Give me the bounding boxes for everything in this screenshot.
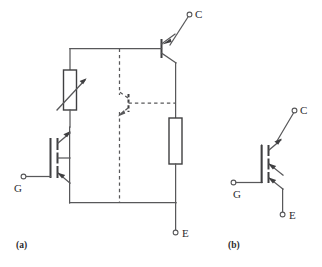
variable-resistor-arrow-head xyxy=(80,78,87,84)
label-emitter-a: E xyxy=(182,227,189,239)
label-gate-b: G xyxy=(233,188,241,200)
figure-container: C G E (a) xyxy=(0,0,322,267)
gate-terminal-node-b xyxy=(231,180,236,185)
label-collector-b: C xyxy=(300,104,307,116)
label-gate-a: G xyxy=(14,182,22,194)
label-emitter-b: E xyxy=(289,209,296,221)
panel-b-igbt-symbol: C G E (b) xyxy=(228,104,307,251)
variable-resistor-body xyxy=(64,70,77,110)
collector-lead-wire xyxy=(170,17,188,45)
panel-a-equivalent-circuit: C G E (a) xyxy=(14,8,202,251)
collector-lead-wire-b xyxy=(277,113,294,141)
npn-transistor-dashed xyxy=(118,49,176,204)
panel-b-collector-terminal xyxy=(277,108,297,141)
panel-a-collector-terminal xyxy=(170,12,192,45)
npn-collector-wire xyxy=(120,92,129,98)
circuit-diagram-svg: C G E (a) xyxy=(0,0,322,267)
igbt-collector-branch xyxy=(269,138,282,150)
variable-resistor xyxy=(57,70,87,127)
collector-terminal-node-b xyxy=(292,108,297,113)
pnp-transistor xyxy=(70,34,176,118)
emitter-terminal-node xyxy=(173,230,178,235)
igbt-middle-branch xyxy=(268,163,283,175)
igbt-emitter-branch xyxy=(268,177,285,217)
panel-b-gate-terminal xyxy=(231,145,262,185)
caption-a: (a) xyxy=(16,240,27,251)
body-resistor-body xyxy=(169,118,182,164)
body-resistor xyxy=(169,118,182,203)
panel-a-gate-terminal xyxy=(21,174,26,179)
pnp-collector-wire xyxy=(162,53,177,63)
label-collector-a: C xyxy=(195,8,202,20)
panel-a-emitter-terminal xyxy=(173,203,178,235)
mosfet xyxy=(26,127,71,203)
gate-terminal-node xyxy=(21,174,26,179)
caption-b: (b) xyxy=(228,240,240,251)
igbt-device-bars xyxy=(262,145,269,183)
emitter-terminal-node-b xyxy=(280,212,285,217)
